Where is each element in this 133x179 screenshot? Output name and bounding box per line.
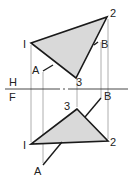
front-view-line-b-segment (85, 98, 101, 117)
front-label-2: 2 (110, 136, 116, 148)
top-label-a: A (32, 64, 40, 76)
label-h: H (9, 76, 17, 88)
front-label-a: A (34, 165, 42, 177)
front-label-b: B (104, 90, 111, 102)
orthographic-projection-diagram: H F I 2 3 A B 3 I 2 A B (0, 0, 133, 179)
top-view-line-a-segment (43, 65, 53, 71)
front-view-triangle (31, 109, 108, 144)
front-label-1: I (23, 139, 26, 151)
front-label-3: 3 (64, 100, 70, 112)
label-f: F (9, 91, 16, 103)
top-label-2: 2 (110, 7, 116, 19)
front-view-line-a-segment (43, 142, 62, 165)
top-label-1: I (23, 38, 26, 50)
top-label-b: B (101, 38, 108, 50)
top-view-triangle (31, 17, 107, 78)
top-label-3: 3 (76, 76, 82, 88)
